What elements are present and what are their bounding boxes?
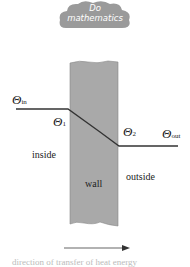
theta-1-label: Θ1: [53, 114, 66, 130]
theta-out-label: Θout: [162, 126, 180, 142]
arrowhead-icon: [122, 245, 130, 251]
theta-in-label: Θin: [12, 92, 27, 108]
outside-label: outside: [126, 171, 155, 182]
wall-label: wall: [85, 178, 102, 189]
wall: [70, 61, 118, 226]
inside-label: inside: [32, 149, 56, 160]
theta-2-label: Θ2: [123, 124, 136, 140]
caption: direction of transfer of heat energy: [12, 257, 137, 267]
